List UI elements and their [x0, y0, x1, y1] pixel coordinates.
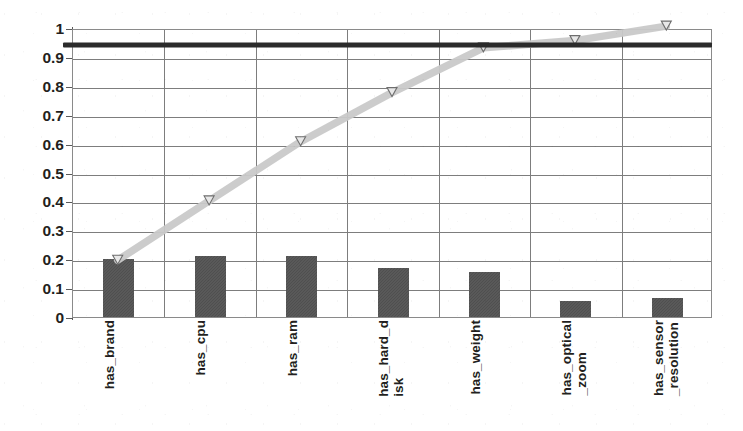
chart-screenshot: 1 0.9 0.8 0.7 0.6 0.5 0.4 0.3 0.2 0.1 0: [0, 0, 743, 431]
y-tick-label: 0.4: [4, 195, 64, 211]
gridline-vertical: [530, 30, 531, 317]
bar-has-optical-zoom: [560, 301, 591, 317]
bar-has-cpu: [195, 256, 226, 317]
y-tick-label: 0.8: [4, 79, 64, 95]
x-tick-label-has-sensor-resolution: has_sensor _resolution: [651, 320, 681, 428]
y-tick-label: 0.7: [4, 108, 64, 124]
gridline-vertical: [622, 30, 623, 317]
y-tick-label: 0.3: [4, 224, 64, 240]
y-tick-label: 0.6: [4, 137, 64, 153]
y-tick-label: 1: [4, 21, 64, 37]
bar-has-brand: [103, 259, 134, 317]
gridline-horizontal: [73, 117, 711, 118]
gridline-horizontal: [73, 59, 711, 60]
y-tick-label: 0.1: [4, 281, 64, 297]
bar-has-hard-disk: [378, 268, 409, 317]
gridline-horizontal: [73, 232, 711, 233]
gridline-horizontal: [73, 261, 711, 262]
x-tick-label-has-brand: has_brand: [102, 320, 117, 428]
y-tick-label: 0: [4, 310, 64, 326]
x-tick-label-has-weight: has_weight: [468, 320, 483, 428]
x-tick-label-has-optical-zoom: has_optical _zoom: [559, 320, 589, 428]
gridline-horizontal: [73, 203, 711, 204]
gridline-vertical: [164, 30, 165, 317]
threshold-line: [63, 43, 712, 48]
gridline-vertical: [439, 30, 440, 317]
gridline-vertical: [256, 30, 257, 317]
y-tick-label: 0.5: [4, 166, 64, 182]
gridline-horizontal: [73, 146, 711, 147]
y-tick-label: 0.9: [4, 50, 64, 66]
y-axis-tick-labels: 1 0.9 0.8 0.7 0.6 0.5 0.4 0.3 0.2 0.1 0: [0, 0, 64, 431]
x-tick-label-has-cpu: has_cpu: [193, 320, 208, 428]
y-tick-mark: [66, 318, 72, 319]
gridline-vertical: [347, 30, 348, 317]
plot-area: [72, 29, 712, 318]
x-axis-tick-labels: has_brand has_cpu has_ram has_hard_d isk…: [72, 320, 712, 431]
x-tick-label-has-hard-disk: has_hard_d isk: [376, 320, 406, 428]
bar-has-sensor-resolution: [652, 298, 683, 317]
gridline-horizontal: [73, 88, 711, 89]
y-tick-label: 0.2: [4, 252, 64, 268]
bar-has-ram: [286, 256, 317, 317]
gridline-horizontal: [73, 175, 711, 176]
x-tick-label-has-ram: has_ram: [285, 320, 300, 428]
bar-has-weight: [469, 272, 500, 317]
